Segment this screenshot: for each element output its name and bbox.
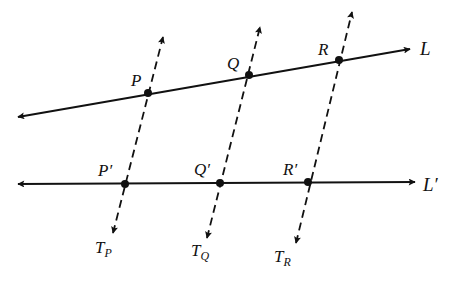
point-label-R: R (317, 40, 329, 59)
point-label-Pp: P′ (97, 161, 112, 180)
transversal-label-P: TP (95, 238, 112, 260)
point-label-Qp: Q′ (194, 160, 210, 179)
point-label-Rp: R′ (282, 160, 297, 179)
transversal-TP (113, 37, 163, 233)
lines-layer (18, 49, 415, 184)
line-label-1: L′ (422, 174, 439, 195)
line-label-0: L (419, 38, 431, 59)
points-layer (121, 56, 343, 188)
transversal-label-R: TR (274, 247, 291, 269)
transversals-layer (113, 12, 352, 243)
point-R (335, 56, 343, 64)
point-Qp (216, 179, 224, 187)
point-Pp (121, 180, 129, 188)
point-Rp (304, 178, 312, 186)
point-label-Q: Q (227, 54, 239, 73)
point-Q (245, 71, 253, 79)
transversal-label-Q: TQ (191, 241, 209, 263)
line-L (18, 49, 410, 117)
point-P (144, 89, 152, 97)
point-label-P: P (130, 71, 141, 90)
diagram-canvas: PQRP′Q′R′LL′TPTQTR (0, 0, 456, 289)
labels-layer: PQRP′Q′R′LL′TPTQTR (95, 38, 439, 269)
